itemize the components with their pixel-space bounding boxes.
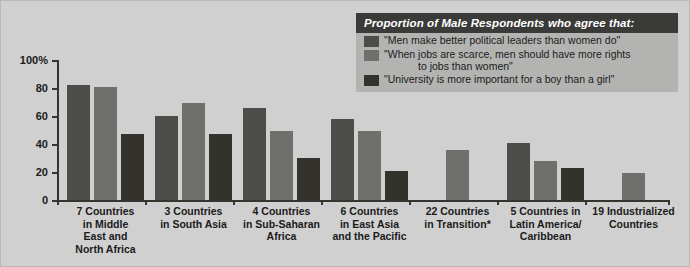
legend-item: "Men make better political leaders than … [356,33,678,47]
bar-group [622,173,645,200]
category-label-line: Caribbean [501,230,590,243]
bar-series1 [331,119,354,200]
legend-title: Proportion of Male Respondents who agree… [356,13,678,33]
category-label-line: 6 Countries [325,205,414,218]
bar-group [507,143,584,200]
category-label-line: Latin America/ [501,218,590,231]
category-label-line: 5 Countries in [501,205,590,218]
y-axis-tick [52,172,57,174]
bar-series2 [446,150,469,200]
category-label-line: 3 Countries [149,205,238,218]
category-label-line: 22 Countries [413,205,502,218]
category-label-line: 19 Industrialized [589,205,678,218]
bar-series2 [358,131,381,200]
bar-series1 [507,143,530,200]
bar-series2 [622,173,645,200]
bar-series3 [297,158,320,200]
x-axis-tick [57,200,59,205]
category-label-line: in Sub-Saharan [237,218,326,231]
bar-group [243,108,320,200]
y-axis-tick-label: 100% [20,54,48,66]
bar-group [446,150,469,200]
category-label-line: in South Asia [149,218,238,231]
bar-chart-plot: 020406080100% 7 Countriesin MiddleEast a… [57,60,669,201]
y-axis-tick [52,60,57,62]
y-axis-tick-label: 0 [42,194,48,206]
x-axis-category-label: 19 IndustrializedCountries [589,205,678,230]
category-label-line: North Africa [61,243,150,256]
x-axis-category-label: 3 Countriesin South Asia [149,205,238,230]
bar-series2 [270,131,293,200]
bar-series1 [155,116,178,200]
y-axis-tick-label: 60 [36,110,48,122]
y-axis-tick-label: 20 [36,166,48,178]
category-label-line: in Transition* [413,218,502,231]
category-label-line: East and [61,230,150,243]
chart-frame: Proportion of Male Respondents who agree… [0,0,690,267]
bar-group [331,119,408,200]
category-label-line: Countries [589,218,678,231]
legend-label-series2-line1: "When jobs are scarce, men should have m… [384,48,631,60]
bar-series2 [94,87,117,200]
category-label-line: in Middle [61,218,150,231]
bar-series1 [243,108,266,200]
y-axis-tick [52,88,57,90]
x-axis-category-label: 4 Countriesin Sub-SaharanAfrica [237,205,326,243]
x-axis-category-label: 22 Countriesin Transition* [413,205,502,230]
bar-group [67,85,144,200]
bar-series3 [385,171,408,200]
x-axis-category-label: 5 Countries inLatin America/Caribbean [501,205,590,243]
y-axis-tick-label: 40 [36,138,48,150]
bar-group [155,103,232,200]
y-axis-tick-label: 80 [36,82,48,94]
bar-series3 [121,134,144,200]
bar-series2 [534,161,557,200]
category-label-line: 4 Countries [237,205,326,218]
bar-series3 [209,134,232,200]
x-axis-category-label: 6 Countriesin East Asiaand the Pacific [325,205,414,243]
category-label-line: 7 Countries [61,205,150,218]
bar-series1 [67,85,90,200]
bar-series3 [561,168,584,200]
legend-label-series1: "Men make better political leaders than … [384,35,620,47]
legend-swatch-series1 [364,36,379,47]
y-axis-tick [52,116,57,118]
category-label-line: and the Pacific [325,230,414,243]
x-axis-category-label: 7 Countriesin MiddleEast andNorth Africa [61,205,150,255]
bar-series2 [182,103,205,200]
x-axis-line [57,200,669,202]
category-label-line: Africa [237,230,326,243]
y-axis-tick [52,144,57,146]
y-axis-line [57,60,59,201]
category-label-line: in East Asia [325,218,414,231]
